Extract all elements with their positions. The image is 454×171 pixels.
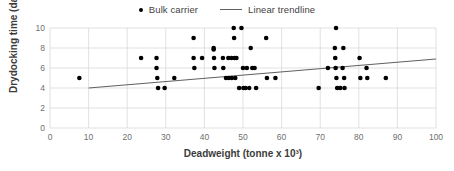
x-axis-title-text: Deadweight (tonne x 10³): [184, 148, 302, 159]
y-tick-label: 4: [25, 83, 45, 93]
y-tick-label: 6: [25, 63, 45, 73]
trendline: [89, 59, 436, 88]
x-tick-label: 10: [78, 132, 100, 142]
x-tick-label: 40: [193, 132, 215, 142]
y-tick-label: 2: [25, 103, 45, 113]
x-tick-label: 100: [425, 132, 447, 142]
x-tick-label: 60: [271, 132, 293, 142]
x-tick-label: 70: [309, 132, 331, 142]
x-tick-label: 50: [232, 132, 254, 142]
x-tick-label: 0: [39, 132, 61, 142]
x-tick-label: 90: [386, 132, 408, 142]
y-tick-label: 10: [25, 23, 45, 33]
x-axis-title: Deadweight (tonne x 10³): [50, 148, 436, 159]
drydocking-scatter-chart: Bulk carrier Linear trendline Drydocking…: [0, 0, 454, 171]
plot-area: [0, 0, 454, 171]
x-tick-label: 30: [155, 132, 177, 142]
x-tick-label: 20: [116, 132, 138, 142]
gridlines: [50, 28, 436, 128]
x-tick-label: 80: [348, 132, 370, 142]
data-points: [77, 26, 388, 91]
y-tick-label: 8: [25, 43, 45, 53]
